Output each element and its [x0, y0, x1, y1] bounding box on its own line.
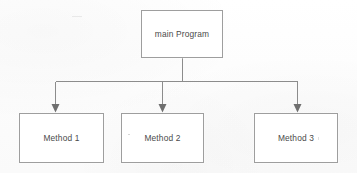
node-main-program[interactable]: main Program: [141, 10, 223, 58]
diagram-canvas: main Program Method 1 Method 2 Method 3: [0, 0, 357, 173]
node-method-1-label: Method 1: [43, 134, 79, 142]
node-method-3[interactable]: Method 3: [254, 113, 338, 163]
arrowhead-method3-icon: [294, 104, 302, 113]
node-method-2-label: Method 2: [144, 134, 180, 142]
arrowhead-method2-icon: [159, 104, 167, 113]
scan-speck: [72, 16, 82, 17]
node-main-program-label: main Program: [155, 30, 209, 38]
arrowhead-method1-icon: [52, 104, 60, 113]
node-method-2[interactable]: Method 2: [121, 113, 204, 163]
node-method-3-label: Method 3: [278, 134, 314, 142]
node-method-1[interactable]: Method 1: [19, 113, 104, 163]
